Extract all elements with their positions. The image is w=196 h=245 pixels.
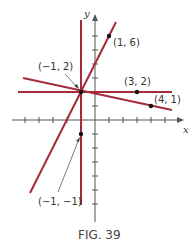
label-4-1: (4, 1): [154, 94, 181, 105]
label-neg1-neg1: (−1, −1): [38, 196, 82, 207]
label-neg1-2: (−1, 2): [38, 61, 73, 72]
point-neg1-neg1: [79, 132, 83, 136]
coordinate-figure: x y (−1, 2) (1, 6) (3, 2) (4, 1) (−1, −1…: [0, 0, 196, 245]
leader-arrow-neg1-neg1: [58, 139, 79, 192]
point-neg1-2: [79, 90, 83, 94]
label-3-2: (3, 2): [124, 76, 151, 87]
x-axis: [12, 117, 184, 123]
point-4-1: [149, 104, 153, 108]
y-axis-label: y: [83, 8, 90, 19]
label-1-6: (1, 6): [113, 37, 140, 48]
x-axis-label: x: [183, 124, 189, 135]
line-slope-2: [30, 22, 116, 193]
point-3-2: [135, 90, 139, 94]
point-1-6: [107, 34, 111, 38]
y-axis: [92, 14, 98, 222]
figure-caption: FIG. 39: [78, 228, 121, 242]
